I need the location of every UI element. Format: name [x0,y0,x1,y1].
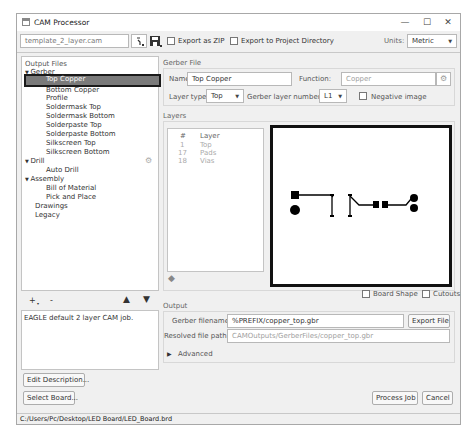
add-dropdown-icon: ▾ [37,301,39,306]
export-file-button[interactable]: Export File [408,314,450,328]
board-shape-label: Board Shape [373,290,418,298]
resolved-path-label: Resolved file path: [164,332,229,340]
arrow-down-icon: ▼ [143,294,150,304]
gerber-file-group: Name: Top Copper Function: Copper ⚙ Laye… [163,68,455,106]
layer-number-select[interactable]: L1 ▼ [319,89,347,103]
pcb-top-copper-preview [273,128,449,284]
cam-file-field[interactable]: template_2_layer.cam [20,34,129,48]
minimize-button[interactable]: — [395,16,415,29]
layer-number-label: Gerber layer number: [247,93,323,101]
tree-item-pick-and-place[interactable]: Pick and Place [46,193,96,201]
toolbar-divider [17,52,460,53]
cam-processor-window: CAM Processor — ☐ ✕ template_2_layer.cam… [16,13,461,425]
export-zip-label: Export as ZIP [178,37,224,45]
export-project-label: Export to Project Directory [241,37,334,45]
function-field[interactable]: Copper [341,72,436,86]
expand-advanced-icon[interactable]: ▶ [167,350,172,357]
layers-col-num: # [180,132,186,140]
title-bar: CAM Processor — ☐ ✕ [17,14,460,31]
board-file-path: C:/Users/Pc/Desktop/LED Board/LED_Board.… [20,415,172,423]
output-files-tree: Output Files ▼ Gerber Top Copper Bottom … [21,56,159,291]
arrow-up-icon: ▲ [123,294,130,304]
layer-row-name[interactable]: Vias [200,157,215,165]
output-group: Gerber filename: %PREFIX/copper_top.gbr … [163,311,455,363]
layer-row-num: 18 [178,157,187,165]
layer-type-label: Layer type: [169,93,209,101]
export-project-checkbox[interactable] [230,37,238,45]
layer-number-value: L1 [324,92,332,100]
tree-item-solderpaste-top[interactable]: Solderpaste Top [46,121,102,129]
cancel-button[interactable]: Cancel [422,391,453,405]
layer-row-name[interactable]: Top [200,141,212,149]
description-box: EAGLE default 2 layer CAM job. [21,310,159,370]
save-button[interactable] [148,34,164,48]
tree-item-bottom-copper[interactable]: Bottom Copper [46,86,99,94]
advanced-toggle[interactable]: Advanced [178,350,213,358]
layer-row-num: 17 [178,149,187,157]
gear-icon[interactable]: ⚙ [145,156,152,165]
tree-item-auto-drill[interactable]: Auto Drill [46,166,79,174]
resolved-path-field: CAMOutputs/GerberFiles/copper_top.gbr [227,329,450,343]
tree-item-bill-of-material[interactable]: Bill of Material [46,184,96,192]
app-icon [22,18,30,26]
open-job-icon [132,35,146,47]
tree-item-silkscreen-bottom[interactable]: Silkscreen Bottom [46,148,110,156]
layer-stack-icon: ◆ [168,273,175,283]
layer-row-name[interactable]: Pads [200,149,216,157]
negative-image-label: Negative image [371,93,426,101]
function-label: Function: [299,75,331,83]
units-label: Units: [384,37,404,45]
tree-group-legacy[interactable]: Legacy [35,211,60,219]
gerber-filename-field[interactable]: %PREFIX/copper_top.gbr [227,314,404,328]
tree-group-drawings[interactable]: Drawings [35,202,68,210]
window-title: CAM Processor [34,18,89,27]
tree-item-soldermask-top[interactable]: Soldermask Top [46,103,101,111]
output-files-header: Output Files [25,60,67,68]
cutouts-checkbox[interactable] [422,290,430,298]
add-output-button[interactable]: + [29,296,36,305]
description-text: EAGLE default 2 layer CAM job. [24,314,133,322]
layer-type-select[interactable]: Top ▼ [206,89,244,103]
chevron-down-icon: ▼ [235,90,239,102]
layers-list[interactable]: # Layer 1 Top 17 Pads 18 Vias [167,128,264,272]
layers-col-layer: Layer [200,132,220,140]
open-job-button[interactable] [131,34,147,48]
board-preview [270,125,452,287]
status-bar: C:/Users/Pc/Desktop/LED Board/LED_Board.… [17,413,460,424]
select-board-button[interactable]: Select Board... [23,391,75,405]
tree-item-soldermask-bottom[interactable]: Soldermask Bottom [46,112,115,120]
edit-description-button[interactable]: Edit Description... [23,373,85,387]
layer-edit-button[interactable]: ◆ [168,273,175,283]
maximize-button[interactable]: ☐ [417,16,437,29]
name-field[interactable]: Top Copper [187,72,292,86]
tree-group-drill[interactable]: ▼ Drill [25,157,45,165]
tree-item-profile[interactable]: Profile [46,94,68,102]
gear-icon: ⚙ [440,74,447,83]
layers-section-title: Layers [163,112,186,120]
move-up-button[interactable]: ▲ [123,294,130,304]
remove-output-button[interactable]: - [50,296,53,305]
layer-type-value: Top [211,92,223,100]
process-job-button[interactable]: Process Job [372,391,418,405]
cutouts-label: Cutouts [433,290,460,298]
tree-item-solderpaste-bottom[interactable]: Solderpaste Bottom [46,130,116,138]
tree-item-silkscreen-top[interactable]: Silkscreen Top [46,139,96,147]
move-down-button[interactable]: ▼ [143,294,150,304]
board-shape-checkbox[interactable] [362,290,370,298]
chevron-down-icon: ▼ [448,35,452,47]
negative-image-checkbox[interactable] [359,92,367,100]
output-section-title: Output [163,302,187,310]
toolbar: template_2_layer.cam Export as ZIP Expor… [17,31,460,51]
function-settings-button[interactable]: ⚙ [436,72,451,86]
gerber-file-section-title: Gerber File [163,59,201,67]
tree-group-assembly[interactable]: ▼ Assembly [25,175,64,183]
export-zip-checkbox[interactable] [167,37,175,45]
units-value: Metric [412,37,434,45]
save-icon [148,34,164,48]
layer-row-num: 1 [180,141,184,149]
gerber-filename-label: Gerber filename: [172,317,231,325]
units-select[interactable]: Metric ▼ [407,34,457,48]
close-button[interactable]: ✕ [438,16,458,29]
chevron-down-icon: ▼ [338,90,342,102]
